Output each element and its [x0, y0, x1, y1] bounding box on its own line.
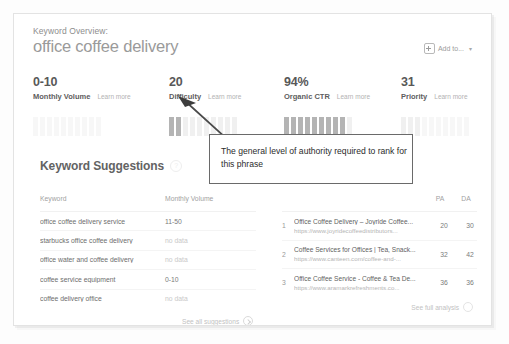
gauge-bar [415, 117, 420, 136]
da-value: 30 [463, 222, 477, 229]
volume-cell: 0-10 [165, 276, 179, 283]
metric-value: 20 [169, 76, 241, 89]
result-info: Office Coffee Delivery – Joyride Coffee.… [294, 218, 425, 234]
da-value: 36 [463, 279, 477, 286]
table-row[interactable]: 3 Office Coffee Service - Coffee & Tea D… [282, 269, 477, 297]
da-value: 42 [463, 251, 477, 258]
section-title: Keyword Suggestions [40, 159, 164, 173]
screenshot-root: Keyword Overview: office coffee delivery… [0, 0, 509, 344]
result-index: 2 [282, 251, 294, 258]
keyword-suggestions-table: Keyword Monthly Volume office coffee del… [40, 195, 256, 308]
add-to-label: Add to... [438, 45, 464, 52]
gauge-bar [33, 117, 38, 136]
gauge-bar [89, 117, 94, 136]
metric-label: Priority [401, 92, 427, 101]
see-all-label: See all suggestions [182, 318, 239, 325]
plus-square-icon [424, 43, 435, 54]
serp-results-table: PA DA 1 Office Coffee Delivery – Joyride… [282, 195, 477, 297]
result-index: 1 [282, 222, 294, 229]
gauge-bar [422, 117, 427, 136]
result-info: Coffee Services for Offices | Tea, Snack… [294, 246, 425, 262]
column-header-pa: PA [433, 195, 447, 202]
result-index: 3 [282, 279, 294, 286]
gauge-bar [450, 117, 455, 136]
gauge-bar [61, 117, 66, 136]
gauge-bar [40, 117, 45, 136]
page-title: office coffee delivery [33, 37, 178, 56]
page-eyebrow: Keyword Overview: [33, 26, 108, 36]
table-row[interactable]: coffee delivery office no data [40, 290, 256, 308]
gauge-bar [443, 117, 448, 136]
metric-value: 31 [401, 76, 468, 89]
keyword-cell: office water and coffee delivery [40, 256, 165, 263]
pa-value: 36 [437, 279, 451, 286]
table-row[interactable]: 1 Office Coffee Delivery – Joyride Coffe… [282, 212, 477, 241]
metric-organic-ctr: 94% Organic CTR Learn more [284, 76, 370, 101]
add-to-button[interactable]: Add to... ▾ [421, 41, 475, 56]
result-url[interactable]: https://www.aramarkrefreshments.co... [294, 284, 425, 291]
metric-bar-gauge [33, 117, 101, 136]
keyword-cell: coffee service equipment [40, 276, 165, 283]
column-header-keyword: Keyword [40, 195, 165, 202]
pa-value: 20 [437, 222, 451, 229]
arrow-circle-right-icon [463, 302, 473, 312]
see-full-label: See full analysis [411, 304, 459, 311]
table-header-row: Keyword Monthly Volume [40, 195, 256, 212]
metric-label: Organic CTR [284, 92, 330, 101]
gauge-bar [429, 117, 434, 136]
volume-cell: 11-50 [165, 218, 182, 225]
metric-value: 0-10 [33, 76, 131, 89]
see-full-analysis-link[interactable]: See full analysis [411, 302, 473, 312]
gauge-bar [47, 117, 52, 136]
keyword-cell: office coffee delivery service [40, 218, 165, 225]
column-header-da: DA [459, 195, 473, 202]
annotation-text: The general level of authority required … [221, 145, 407, 171]
result-url[interactable]: https://www.joyridecoffeedistributors... [294, 227, 425, 234]
volume-cell: no data [165, 256, 188, 263]
see-all-suggestions-link[interactable]: See all suggestions [182, 316, 253, 326]
learn-more-link[interactable]: Learn more [434, 93, 467, 100]
table-header-row: PA DA [282, 195, 477, 212]
result-title[interactable]: Office Coffee Delivery – Joyride Coffee.… [294, 218, 425, 225]
metric-priority: 31 Priority Learn more [401, 76, 468, 101]
gauge-bar [68, 117, 73, 136]
chevron-down-icon: ▾ [469, 45, 472, 52]
metric-monthly-volume: 0-10 Monthly Volume Learn more [33, 76, 131, 101]
table-row[interactable]: office coffee delivery service 11-50 [40, 212, 256, 231]
learn-more-link[interactable]: Learn more [337, 93, 370, 100]
gauge-bar [464, 117, 469, 136]
result-title[interactable]: Coffee Services for Offices | Tea, Snack… [294, 246, 425, 253]
gauge-bar [82, 117, 87, 136]
result-title[interactable]: Office Coffee Service - Coffee & Tea De.… [294, 275, 425, 282]
metric-value: 94% [284, 76, 370, 89]
table-row[interactable]: office water and coffee delivery no data [40, 251, 256, 270]
keyword-cell: coffee delivery office [40, 295, 165, 302]
arrow-circle-right-icon [243, 316, 253, 326]
gauge-bar [436, 117, 441, 136]
gauge-bar [75, 117, 80, 136]
table-row[interactable]: 2 Coffee Services for Offices | Tea, Sna… [282, 241, 477, 270]
learn-more-link[interactable]: Learn more [97, 93, 130, 100]
gauge-bar [96, 117, 101, 136]
result-info: Office Coffee Service - Coffee & Tea De.… [294, 275, 425, 291]
volume-cell: no data [165, 237, 188, 244]
column-header-monthly-volume: Monthly Volume [165, 195, 213, 202]
table-row[interactable]: starbucks office coffee delivery no data [40, 231, 256, 250]
pa-value: 32 [437, 251, 451, 258]
table-row[interactable]: coffee service equipment 0-10 [40, 270, 256, 289]
keyword-cell: starbucks office coffee delivery [40, 237, 165, 244]
keyword-suggestions-heading: Keyword Suggestions ? [40, 159, 182, 173]
result-url[interactable]: https://www.canteen.com/coffee-and-... [294, 255, 425, 262]
gauge-bar [54, 117, 59, 136]
annotation-callout: The general level of authority required … [209, 134, 413, 184]
metric-label: Monthly Volume [33, 92, 90, 101]
gauge-bar [457, 117, 462, 136]
volume-cell: no data [165, 295, 188, 302]
